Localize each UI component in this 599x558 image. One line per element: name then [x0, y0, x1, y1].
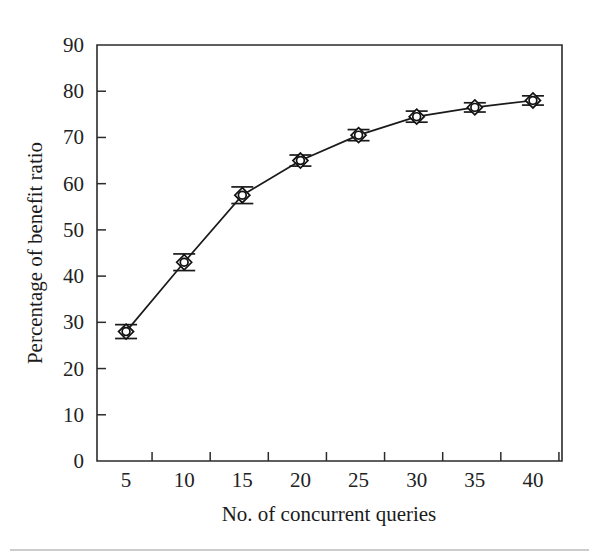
x-tick-label: 5	[121, 468, 132, 492]
y-tick-label: 60	[63, 172, 84, 196]
chart-figure: 0102030405060708090 510152025303540 No. …	[0, 0, 599, 558]
x-tick-label: 30	[406, 468, 427, 492]
y-tick-label: 70	[63, 125, 84, 149]
x-axis-title: No. of concurrent queries	[222, 502, 437, 526]
y-tick-label: 10	[63, 403, 84, 427]
x-tick-label: 25	[348, 468, 369, 492]
y-tick-label: 0	[74, 449, 85, 473]
x-tick-label: 35	[464, 468, 485, 492]
y-tick-label: 20	[63, 357, 84, 381]
x-tick-label: 20	[290, 468, 311, 492]
y-tick-label: 30	[63, 310, 84, 334]
y-tick-label: 40	[63, 264, 84, 288]
y-tick-label: 90	[63, 33, 84, 57]
y-tick-label: 50	[63, 218, 84, 242]
x-tick-label: 10	[174, 468, 195, 492]
chart-svg: 0102030405060708090 510152025303540 No. …	[0, 0, 599, 558]
y-axis-title: Percentage of benefit ratio	[23, 142, 47, 364]
y-tick-label: 80	[63, 79, 84, 103]
x-tick-label: 40	[522, 468, 543, 492]
x-tick-label: 15	[232, 468, 253, 492]
